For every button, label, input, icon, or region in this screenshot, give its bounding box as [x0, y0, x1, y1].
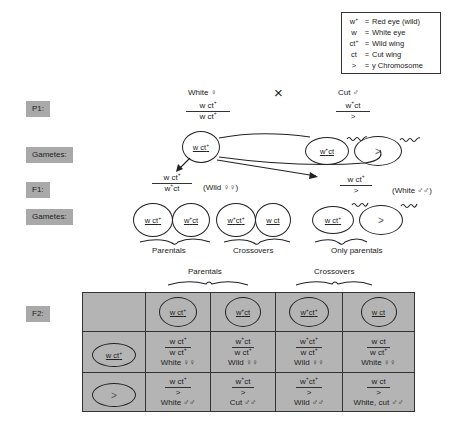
f1-male-label: (White ♂♂): [392, 186, 432, 195]
gamete-f1-male-x: w ct+: [312, 206, 354, 234]
parentals-label: Parentals: [152, 246, 186, 255]
legend-row: w=White eye: [346, 27, 436, 38]
gamete-f1-male-y: >: [359, 205, 403, 235]
label-p1: P1:: [26, 101, 50, 117]
crossovers-label: Crossovers: [233, 246, 273, 255]
label-gametes-1: Gametes:: [26, 147, 73, 163]
col-gamete: w ct: [361, 297, 397, 327]
punnett-cell: w ctw ct+White ♀♀: [343, 332, 415, 373]
f2-parentals-label: Parentals: [188, 267, 222, 276]
row-header: w ct+: [83, 332, 146, 373]
punnett-cell: w+ct>Cut ♂♂: [211, 373, 276, 412]
gamete-p1-male-x: w+ct: [305, 137, 349, 165]
col-header: w+ct: [211, 293, 276, 332]
punnett-cell: w+ct+>Wild ♂♂: [276, 373, 343, 412]
col-gamete: w ct+: [159, 297, 197, 327]
punnett-cell: w ct>White, cut ♂♂: [343, 373, 415, 412]
gamete-f1-female-4: w ct: [255, 203, 291, 237]
row-gamete: >: [92, 383, 136, 407]
p1-female-label: White ♀: [188, 88, 217, 97]
row-gamete: w ct+: [92, 343, 136, 367]
col-gamete: w+ct: [225, 297, 261, 327]
col-header: w ct: [343, 293, 415, 332]
punnett-cell: w ct+>White ♂♂: [146, 373, 211, 412]
col-gamete: w+ct+: [289, 297, 329, 327]
f1-female-label: (Wild ♀♀): [203, 183, 238, 192]
col-header: w ct+: [146, 293, 211, 332]
cross-symbol: ×: [274, 84, 283, 101]
punnett-cell: w+ct+w ct+Wild ♀♀: [276, 332, 343, 373]
legend-row: ct+=Wild wing: [346, 38, 436, 49]
gamete-f1-female-3: w+ct+: [216, 203, 256, 237]
f1-female-genotype: w ct+ w+ct: [152, 173, 192, 194]
label-f1: F1:: [26, 182, 50, 198]
punnett-square: w ct+ w+ct w+ct+ w ct w ct+ w ct+w ct+Wh…: [82, 292, 415, 412]
row-header: >: [83, 373, 146, 412]
p1-male-label: Cut ♂: [338, 88, 359, 97]
p1-female-genotype: w ct+ w ct+: [186, 101, 230, 122]
p1-male-genotype: w+ct >: [336, 101, 370, 122]
legend-row: ct=Cut wing: [346, 49, 436, 60]
gamete-p1-female: w ct+: [182, 131, 220, 163]
punnett-cell: w+ctw ct+Wild ♀♀: [211, 332, 276, 373]
gamete-f1-female-1: w ct+: [133, 203, 173, 237]
legend-row: >=y Chromosome: [346, 60, 436, 71]
punnett-cell: w ct+w ct+White ♀♀: [146, 332, 211, 373]
only-parentals-label: Only parentals: [331, 246, 383, 255]
label-gametes-2: Gametes:: [26, 209, 73, 225]
gamete-f1-female-2: w+ct: [172, 203, 210, 237]
gamete-p1-male-y: >: [354, 136, 402, 166]
f2-crossovers-label: Crossovers: [314, 267, 354, 276]
f1-male-genotype: w ct+ >: [340, 175, 372, 196]
corner-cell: [83, 293, 146, 332]
legend-row: w+=Red eye (wild): [346, 16, 436, 27]
col-header: w+ct+: [276, 293, 343, 332]
legend-box: w+=Red eye (wild) w=White eye ct+=Wild w…: [341, 12, 441, 74]
label-f2: F2:: [26, 306, 50, 322]
